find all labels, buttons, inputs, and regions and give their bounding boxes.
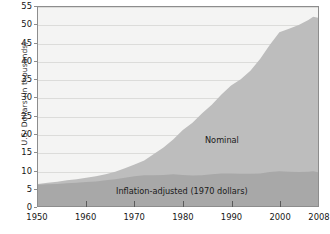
x-tick-mark [232,201,233,207]
x-tick-mark [134,201,135,207]
plot-area [37,6,319,207]
x-tick-label: 2008 [308,212,329,222]
x-tick-mark [183,201,184,207]
x-tick-mark [280,201,281,207]
x-tick-label: 1960 [75,212,96,222]
y-axis-title: U.S. Dollars (in thousands) [20,14,29,174]
plot-inner [38,7,318,206]
y-tick-label: 5 [5,185,32,193]
x-tick-mark [86,201,87,207]
y-tick-label: 55 [5,2,32,10]
area-series-svg [38,7,318,206]
x-tick-label: 1980 [172,212,193,222]
y-tick-mark [34,207,37,208]
x-tick-label: 2000 [269,212,290,222]
y-tick-label: 0 [5,203,32,211]
x-tick-label: 1990 [221,212,242,222]
annotation-nominal: Nominal [205,135,239,145]
annotation-inflation-adjusted: Inflation-adjusted (1970 dollars) [116,186,248,196]
x-tick-label: 1950 [26,212,47,222]
x-tick-label: 1970 [124,212,145,222]
